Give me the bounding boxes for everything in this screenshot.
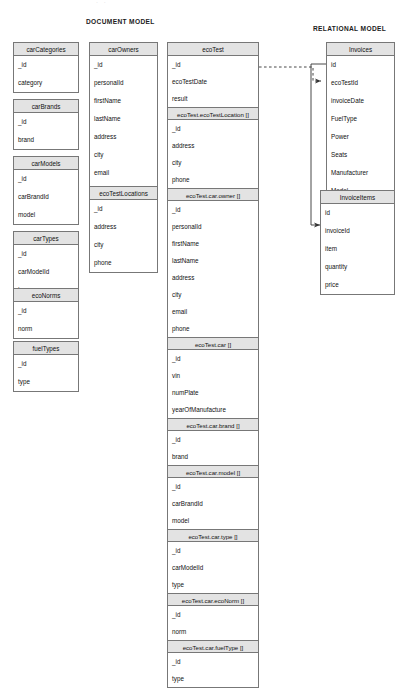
field-ecoNorms-id: _id: [14, 302, 78, 320]
field-InvoiceItems-quantity: quantity: [321, 258, 394, 276]
field-ecoTestLocations-id: _id: [90, 200, 157, 218]
field-Invoices-id: id: [327, 56, 394, 74]
subentity-header-car: ecoTest.car []: [168, 337, 258, 350]
entity-header-Invoices: Invoices: [327, 43, 394, 56]
entity-ecoTestLocations[interactable]: ecoTestLocations _id address city phone: [89, 186, 158, 273]
entity-header-InvoiceItems: InvoiceItems: [321, 191, 394, 204]
field-Invoices-Power: Power: [327, 128, 394, 146]
field-carModels-id: _id: [14, 170, 78, 188]
field-carType-id: _id: [168, 542, 258, 559]
field-carOwner-address: address: [168, 269, 258, 286]
subentity-header-carBrand: ecoTest.car.brand []: [168, 418, 258, 431]
entity-Invoices[interactable]: Invoices id ecoTestId invoiceDate FuelTy…: [326, 42, 395, 201]
entity-carBrands[interactable]: carBrands _id brand: [13, 99, 79, 150]
field-carOwner-lastName: lastName: [168, 252, 258, 269]
field-carOwners-firstName: firstName: [90, 92, 157, 110]
field-fuelType-type: type: [168, 670, 258, 687]
field-fuelTypes-type: type: [14, 373, 78, 391]
connector-ecotest-to-invoices: [259, 67, 321, 81]
entity-carCategories[interactable]: carCategories _id category: [13, 42, 79, 93]
field-carOwners-lastName: lastName: [90, 110, 157, 128]
entity-header-fuelTypes: fuelTypes: [14, 342, 78, 355]
field-carModels-model: model: [14, 206, 78, 224]
field-car-vin: vin: [168, 367, 258, 384]
field-Invoices-invoiceDate: invoiceDate: [327, 92, 394, 110]
field-car-id: _id: [168, 350, 258, 367]
field-carOwner-id: _id: [168, 201, 258, 218]
field-ecoTestLocation-phone: phone: [168, 171, 258, 188]
field-InvoiceItems-invoiceId: invoiceId: [321, 222, 394, 240]
subentity-header-fuelType: ecoTest.car.fuelType []: [168, 640, 258, 653]
field-car-yearOfManufacture: yearOfManufacture: [168, 401, 258, 418]
field-carModel-id: _id: [168, 478, 258, 495]
field-carOwners-city: city: [90, 146, 157, 164]
field-carOwners-personalId: personalId: [90, 74, 157, 92]
field-car-numPlate: numPlate: [168, 384, 258, 401]
field-carOwner-firstName: firstName: [168, 235, 258, 252]
field-ecoTest-id: _id: [168, 56, 258, 73]
field-Invoices-FuelType: FuelType: [327, 110, 394, 128]
entity-header-ecoTestLocations: ecoTestLocations: [90, 187, 157, 200]
field-InvoiceItems-id: id: [321, 204, 394, 222]
field-ecoTestLocations-city: city: [90, 236, 157, 254]
field-ecoNorm-id: _id: [168, 606, 258, 623]
field-carTypes-carModelId: carModelId: [14, 263, 78, 281]
document-model-title: DOCUMENT MODEL: [86, 18, 155, 25]
field-carType-carModelId: carModelId: [168, 559, 258, 576]
scan-artifact: · ·: [96, 0, 108, 5]
entity-header-carModels: carModels: [14, 157, 78, 170]
field-carCategories-id: _id: [14, 56, 78, 74]
field-carModel-carBrandId: carBrandId: [168, 495, 258, 512]
field-carTypes-id: _id: [14, 245, 78, 263]
field-Invoices-ecoTestId: ecoTestId: [327, 74, 394, 92]
field-fuelType-id: _id: [168, 653, 258, 670]
field-ecoTest-result: result: [168, 90, 258, 107]
field-ecoTestLocation-city: city: [168, 154, 258, 171]
entity-ecoTest[interactable]: ecoTest _id ecoTestDate result ecoTest.e…: [167, 42, 259, 688]
field-carOwners-id: _id: [90, 56, 157, 74]
entity-header-ecoNorms: ecoNorms: [14, 289, 78, 302]
field-carBrands-id: _id: [14, 113, 78, 131]
field-ecoTestLocation-id: _id: [168, 120, 258, 137]
entity-header-carBrands: carBrands: [14, 100, 78, 113]
field-carOwner-personalId: personalId: [168, 218, 258, 235]
field-carBrand-id: _id: [168, 431, 258, 448]
field-carOwners-email: email: [90, 164, 157, 182]
field-ecoTestLocation-address: address: [168, 137, 258, 154]
subentity-header-carOwner: ecoTest.car.owner []: [168, 188, 258, 201]
entity-InvoiceItems[interactable]: InvoiceItems id invoiceId item quantity …: [320, 190, 395, 295]
field-carBrand-brand: brand: [168, 448, 258, 465]
subentity-header-ecoNorm: ecoTest.car.ecoNorm []: [168, 593, 258, 606]
field-InvoiceItems-price: price: [321, 276, 394, 294]
field-ecoTest-ecoTestDate: ecoTestDate: [168, 73, 258, 90]
field-ecoNorms-norm: norm: [14, 320, 78, 338]
field-carModel-model: model: [168, 512, 258, 529]
field-ecoTestLocations-address: address: [90, 218, 157, 236]
field-ecoNorm-norm: norm: [168, 623, 258, 640]
subentity-header-ecoTestLocation: ecoTest.ecoTestLocation []: [168, 107, 258, 120]
relational-model-title: RELATIONAL MODEL: [313, 25, 386, 32]
field-carType-type: type: [168, 576, 258, 593]
entity-ecoNorms[interactable]: ecoNorms _id norm: [13, 288, 79, 339]
entity-header-carTypes: carTypes: [14, 232, 78, 245]
entity-header-carOwners: carOwners: [90, 43, 157, 56]
entity-fuelTypes[interactable]: fuelTypes _id type: [13, 341, 79, 392]
field-carCategories-category: category: [14, 74, 78, 92]
entity-carModels[interactable]: carModels _id carBrandId model: [13, 156, 79, 225]
subentity-header-carModel: ecoTest.car.model []: [168, 465, 258, 478]
entity-header-carCategories: carCategories: [14, 43, 78, 56]
field-carOwner-city: city: [168, 286, 258, 303]
field-carOwner-email: email: [168, 303, 258, 320]
entity-carOwners[interactable]: carOwners _id personalId firstName lastN…: [89, 42, 158, 201]
field-Invoices-Seats: Seats: [327, 146, 394, 164]
field-InvoiceItems-item: item: [321, 240, 394, 258]
field-carOwners-address: address: [90, 128, 157, 146]
subentity-header-carType: ecoTest.car.type []: [168, 529, 258, 542]
field-carOwner-phone: phone: [168, 320, 258, 337]
entity-header-ecoTest: ecoTest: [168, 43, 258, 56]
field-fuelTypes-id: _id: [14, 355, 78, 373]
field-ecoTestLocations-phone: phone: [90, 254, 157, 272]
field-Invoices-Manufacturer: Manufacturer: [327, 164, 394, 182]
field-carModels-carBrandId: carBrandId: [14, 188, 78, 206]
